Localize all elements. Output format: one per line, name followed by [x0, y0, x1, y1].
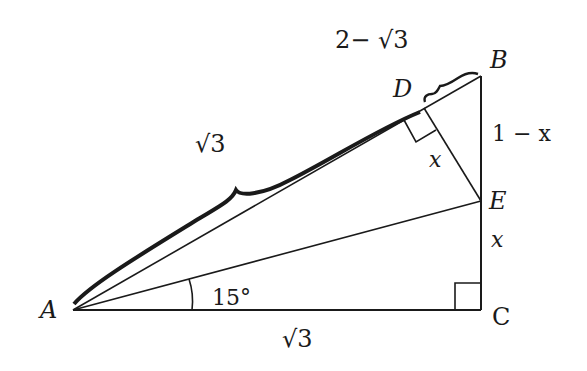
- length-DB: 2− √3: [335, 26, 409, 54]
- right-angle-mark-C: [455, 283, 481, 310]
- label-A: A: [38, 296, 57, 324]
- length-AD: √3: [195, 130, 226, 158]
- label-B: B: [489, 46, 508, 74]
- label-D: D: [392, 75, 412, 103]
- length-AC: √3: [282, 325, 313, 353]
- segment-AE: [73, 201, 481, 310]
- brace-DB: [425, 73, 478, 102]
- length-DE: x: [429, 147, 442, 172]
- length-BE: 1 − x: [492, 121, 551, 146]
- segment-AB: [73, 76, 481, 310]
- right-angle-mark-D: [404, 120, 436, 142]
- triangle-diagram: A B C D E 2− √3 √3 1 − x x x √3 15°: [0, 0, 587, 371]
- label-E: E: [488, 187, 507, 215]
- label-C: C: [492, 303, 510, 331]
- angle-label: 15°: [212, 285, 251, 310]
- angle-arc-15: [189, 279, 193, 310]
- length-EC: x: [491, 227, 504, 252]
